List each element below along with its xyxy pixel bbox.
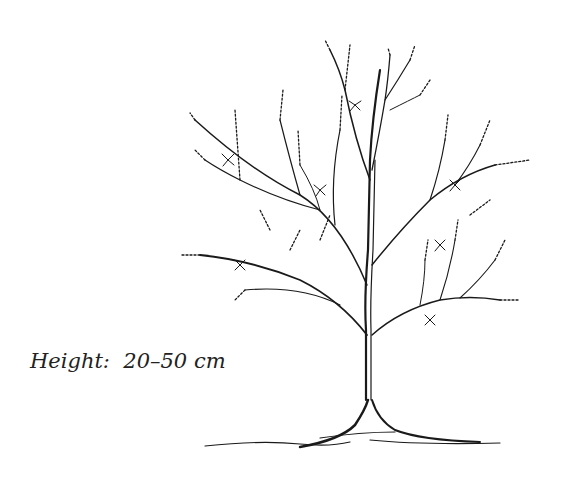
height-caption: Height: 20–50 cm [30, 349, 226, 373]
shrub-drawing [0, 0, 564, 486]
